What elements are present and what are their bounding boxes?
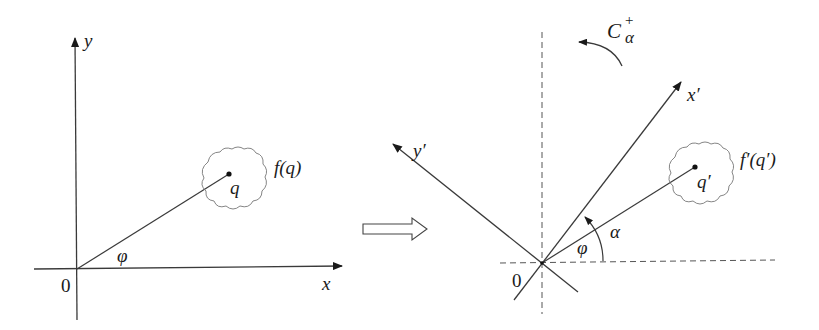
y-axis <box>75 38 77 320</box>
x-prime-label: x′ <box>686 84 700 105</box>
origin-prime-label: 0 <box>512 270 522 291</box>
y-axis-label: y <box>82 30 93 51</box>
function-prime-label: f′(q′) <box>740 149 776 171</box>
angle-phi-prime-label: φ <box>577 237 588 258</box>
alpha-angle-arc <box>585 217 603 261</box>
point-q-label: q <box>230 177 240 198</box>
point-q-prime <box>692 164 697 169</box>
rotation-diagram: y x 0 φ q f(q) x′ y′ 0 φ α q′ f′(q′) <box>0 0 819 330</box>
function-label: f(q) <box>274 157 301 179</box>
y-prime-axis <box>393 144 578 292</box>
angle-alpha-label: α <box>610 221 621 242</box>
point-q <box>226 171 231 176</box>
radius-vector-prime <box>542 167 695 263</box>
angle-phi-label: φ <box>117 245 128 266</box>
point-q-prime-label: q′ <box>697 171 712 192</box>
origin-label: 0 <box>61 275 71 296</box>
hollow-right-arrow-icon <box>363 218 427 240</box>
left-panel: y x 0 φ q f(q) <box>34 30 342 320</box>
operator-label-base: C <box>607 19 622 43</box>
origin-dot <box>540 261 544 265</box>
diagram-canvas: y x 0 φ q f(q) x′ y′ 0 φ α q′ f′(q′) <box>0 0 819 330</box>
operator-label-sub: α <box>625 28 635 47</box>
y-prime-label: y′ <box>411 140 426 161</box>
radius-vector <box>77 174 229 269</box>
x-axis-label: x <box>321 273 331 294</box>
operator-label-sup: + <box>625 12 633 28</box>
right-panel: x′ y′ 0 φ α q′ f′(q′) C + α <box>393 12 776 314</box>
rotation-arrow-icon <box>579 42 622 66</box>
